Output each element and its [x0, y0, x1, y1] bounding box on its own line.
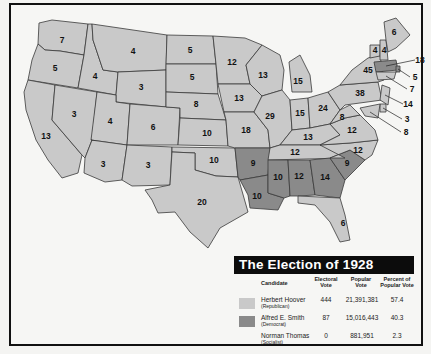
electoral-label-north-dakota: 5 [188, 45, 193, 55]
electoral-label-ohio: 24 [318, 103, 328, 113]
electoral-label-south-dakota: 5 [190, 72, 195, 82]
electoral-label-oregon: 5 [53, 63, 58, 73]
state-arizona [84, 140, 127, 182]
percent-vote: 57.4 [384, 296, 410, 303]
state-michigan [289, 55, 312, 92]
electoral-label-north-carolina: 12 [353, 145, 363, 155]
electoral-vote: 0 [314, 332, 338, 339]
electoral-label-kentucky: 13 [303, 132, 313, 142]
electoral-label-connecticut: 7 [410, 84, 415, 94]
callout-line [386, 76, 407, 89]
electoral-label-utah: 4 [108, 116, 113, 126]
legend-row-thomas: Norman Thomas(Socialist) 0 881,951 2.3 [234, 332, 414, 352]
electoral-label-wisconsin: 13 [258, 70, 268, 80]
legend-title: The Election of 1928 [234, 256, 414, 274]
electoral-label-massachusetts: 18 [415, 55, 425, 65]
callout-line [370, 112, 401, 132]
electoral-label-indiana: 15 [295, 108, 305, 118]
popular-vote: 21,391,381 [344, 296, 380, 303]
popular-vote: 15,016,443 [344, 314, 380, 321]
electoral-label-michigan: 15 [293, 76, 303, 86]
header-percent: Percent of Popular Vote [380, 276, 414, 288]
electoral-label-south-carolina: 9 [345, 158, 350, 168]
electoral-label-oklahoma: 10 [209, 155, 219, 165]
percent-vote: 40.3 [384, 314, 410, 321]
legend-row-smith: Alfred E. Smith(Democrat) 87 15,016,443 … [234, 314, 414, 334]
electoral-label-maine: 6 [392, 27, 397, 37]
state-maryland [360, 104, 380, 118]
electoral-label-new-hampshire: 4 [382, 45, 387, 55]
electoral-label-montana: 4 [131, 46, 136, 56]
electoral-label-missouri: 18 [241, 125, 251, 135]
electoral-vote: 87 [314, 314, 338, 321]
electoral-label-nebraska: 8 [194, 99, 199, 109]
electoral-label-arkansas: 9 [251, 158, 256, 168]
electoral-label-rhode-island: 5 [413, 72, 418, 82]
header-electoral: Electoral Vote [314, 276, 338, 288]
electoral-label-tennessee: 12 [290, 147, 300, 157]
electoral-label-minnesota: 12 [227, 57, 237, 67]
percent-vote: 2.3 [384, 332, 410, 339]
electoral-label-arizona: 3 [101, 159, 106, 169]
state-maine [384, 18, 410, 52]
electoral-label-maryland: 8 [404, 127, 409, 137]
state-montana [92, 24, 167, 72]
callout-line [398, 69, 410, 77]
electoral-label-texas: 20 [197, 197, 207, 207]
electoral-label-mississippi: 10 [273, 172, 283, 182]
legend-row-hoover: Herbert Hoover(Republican) 444 21,391,38… [234, 296, 414, 316]
swatch-democrat [239, 316, 255, 327]
electoral-label-colorado: 6 [151, 122, 156, 132]
candidate-name: Herbert Hoover(Republican) [261, 296, 305, 310]
electoral-label-delaware: 3 [405, 114, 410, 124]
electoral-label-louisiana: 10 [252, 191, 262, 201]
electoral-label-iowa: 13 [234, 93, 244, 103]
electoral-label-washington: 7 [60, 35, 65, 45]
electoral-label-illinois: 29 [265, 111, 275, 121]
electoral-label-florida: 6 [341, 218, 346, 228]
header-popular: Popular Vote [348, 276, 374, 288]
popular-vote: 881,951 [344, 332, 380, 339]
callout-line [383, 108, 402, 119]
electoral-label-new-jersey: 14 [403, 99, 413, 109]
electoral-label-west-virginia: 8 [340, 112, 345, 122]
electoral-label-georgia: 14 [320, 172, 330, 182]
legend: The Election of 1928 Candidate Electoral… [234, 256, 414, 340]
candidate-name: Norman Thomas(Socialist) [261, 332, 309, 346]
electoral-vote: 444 [314, 296, 338, 303]
electoral-label-vermont: 4 [373, 45, 378, 55]
electoral-label-wyoming: 3 [139, 82, 144, 92]
electoral-label-california: 13 [41, 131, 51, 141]
electoral-label-new-york: 45 [363, 65, 373, 75]
electoral-label-pennsylvania: 38 [355, 88, 365, 98]
candidate-name: Alfred E. Smith(Democrat) [261, 314, 304, 328]
header-candidate: Candidate [261, 280, 301, 286]
swatch-republican [239, 298, 255, 309]
electoral-label-kansas: 10 [202, 128, 212, 138]
electoral-label-new-mexico: 3 [146, 160, 151, 170]
electoral-label-virginia: 12 [347, 125, 357, 135]
electoral-label-idaho: 4 [93, 71, 98, 81]
electoral-label-nevada: 3 [72, 109, 77, 119]
electoral-label-alabama: 12 [294, 171, 304, 181]
